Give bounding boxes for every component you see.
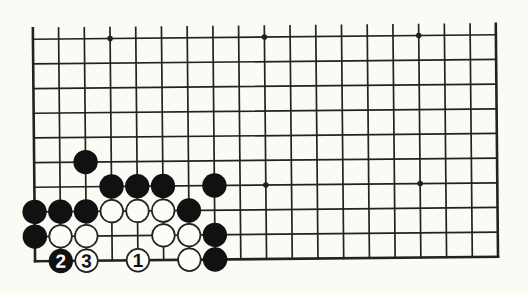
go-board: 231 bbox=[0, 0, 528, 293]
white-stone-move-1: 1 bbox=[127, 249, 150, 272]
star-point bbox=[416, 33, 422, 39]
black-stone bbox=[177, 198, 202, 223]
grid-lines bbox=[33, 24, 498, 261]
white-stone-move-3: 3 bbox=[75, 249, 98, 272]
black-stone-move-2: 2 bbox=[48, 249, 73, 274]
black-stone bbox=[202, 173, 227, 198]
black-stone bbox=[22, 200, 47, 225]
white-stone bbox=[75, 225, 98, 248]
white-stone bbox=[100, 200, 123, 223]
move-number-label: 2 bbox=[55, 251, 66, 272]
black-stone bbox=[99, 174, 124, 199]
white-stone bbox=[152, 224, 175, 247]
black-stone bbox=[151, 174, 176, 199]
go-diagram: 231 bbox=[0, 0, 528, 293]
black-stone bbox=[203, 223, 228, 248]
white-stone bbox=[152, 199, 175, 222]
black-stone bbox=[48, 199, 73, 224]
black-stone bbox=[23, 224, 48, 249]
white-stone bbox=[178, 224, 201, 247]
star-point bbox=[262, 34, 268, 40]
star-point bbox=[107, 36, 113, 42]
board-group: 231 bbox=[21, 24, 498, 274]
star-point bbox=[417, 181, 423, 187]
white-stone bbox=[178, 248, 201, 271]
black-stone bbox=[73, 150, 98, 175]
star-point bbox=[263, 182, 269, 188]
black-stone bbox=[203, 247, 228, 272]
white-stone bbox=[49, 225, 72, 248]
black-stone bbox=[74, 199, 99, 224]
black-stone bbox=[125, 174, 150, 199]
move-number-label: 1 bbox=[133, 250, 144, 271]
move-number-label: 3 bbox=[81, 250, 92, 271]
white-stone bbox=[126, 200, 149, 223]
